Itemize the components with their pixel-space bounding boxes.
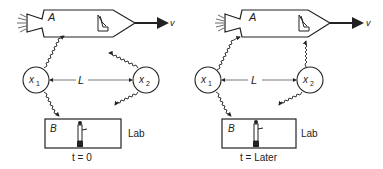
distance-label: L <box>251 74 257 86</box>
rocket-label: A <box>47 11 55 23</box>
lab-label: Lab <box>128 128 145 139</box>
observer-x1-sub: 1 <box>36 80 40 87</box>
time-caption: t = 0 <box>72 152 92 163</box>
velocity-label: v <box>366 18 371 28</box>
observer-x1-label: x <box>200 74 207 85</box>
panel-t-later: A v x 1 x 2 L B Lab t = Later <box>195 10 371 163</box>
observer-x2-sub: 2 <box>310 80 314 87</box>
observer-x1-sub: 1 <box>208 80 212 87</box>
lab-label: Lab <box>301 128 318 139</box>
signal-x2-to-lab <box>279 92 302 105</box>
rocket-a <box>225 10 330 37</box>
velocity-label: v <box>170 18 175 28</box>
observer-x2-sub: 2 <box>146 80 150 87</box>
signal-x2-to-rocket <box>109 53 138 68</box>
signal-x2-to-rocket <box>305 41 307 67</box>
signal-x1-to-rocket <box>217 37 240 70</box>
exhaust-icon <box>17 14 26 32</box>
signal-x2-to-lab <box>115 92 138 105</box>
lab-box-label: B <box>50 123 57 134</box>
rocket-label: A <box>248 11 256 23</box>
observer-x2-label: x <box>302 74 309 85</box>
panel-t0: A v x 1 x 2 L B Lab t = 0 <box>17 10 175 163</box>
time-caption: t = Later <box>240 152 278 163</box>
rocket-a <box>27 10 135 37</box>
observer-x1-label: x <box>28 74 35 85</box>
lab-box-label: B <box>228 123 235 134</box>
observer-x2-label: x <box>138 74 145 85</box>
signal-x1-to-rocket <box>44 36 64 68</box>
signal-x1-to-lab <box>44 92 59 116</box>
signal-x1-to-lab <box>216 92 231 116</box>
exhaust-icon <box>215 15 224 31</box>
relativity-diagram: A v x 1 x 2 L B Lab t = 0 <box>0 0 383 169</box>
distance-label: L <box>78 74 84 86</box>
